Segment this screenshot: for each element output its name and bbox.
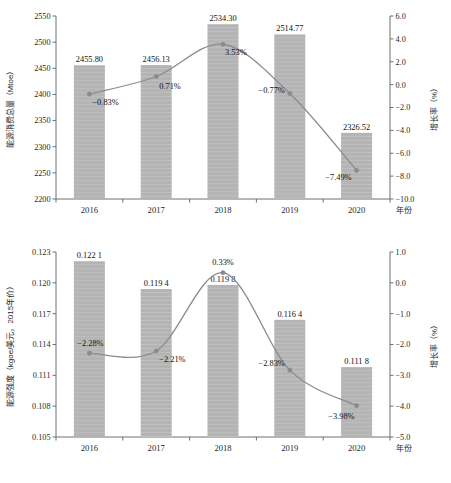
y2-axis-tick-label: 0.0 <box>396 279 406 288</box>
bar-texture-stripe <box>141 96 172 97</box>
y2-axis-tick-label: −6.0 <box>396 149 411 158</box>
y-axis-tick-label: 0.117 <box>32 310 50 319</box>
bar-texture-stripe <box>141 436 172 437</box>
bar-texture-stripe <box>208 308 239 309</box>
bar-texture-stripe <box>341 426 372 427</box>
bar-texture-stripe <box>274 97 305 98</box>
bar-texture-stripe <box>141 324 172 325</box>
bar-texture-stripe <box>274 45 305 46</box>
bar-texture-stripe <box>208 416 239 417</box>
dual-chart-figure: 22002250230023502400245025002550−10.0−8.… <box>0 0 451 483</box>
y-axis-tick-label: 2550 <box>34 12 50 21</box>
bar-texture-stripe <box>74 84 105 85</box>
x-axis-category-label: 2016 <box>81 443 99 453</box>
bar-texture-stripe <box>141 176 172 177</box>
line-data-point <box>355 403 359 407</box>
bar-texture-stripe <box>141 380 172 381</box>
bar-texture-stripe <box>74 404 105 405</box>
bar-texture-stripe <box>141 396 172 397</box>
bar-value-label: 2534.30 <box>209 14 236 23</box>
y-axis-title: 能源消费总量（Mtoe） <box>5 67 15 149</box>
bar-texture-stripe <box>341 434 372 435</box>
bar-texture-stripe <box>208 288 239 289</box>
bar-texture-stripe <box>74 180 105 181</box>
bar-texture-stripe <box>74 108 105 109</box>
growth-rate-label: −7.49% <box>325 173 351 182</box>
bar-texture-stripe <box>74 432 105 433</box>
bar-value-label: 2514.77 <box>276 24 303 33</box>
y-axis-tick-label: 2300 <box>34 143 50 152</box>
x-axis-category-label: 2018 <box>214 443 231 453</box>
bar-texture-stripe <box>74 364 105 365</box>
bar-texture-stripe <box>74 308 105 309</box>
bar-texture-stripe <box>141 144 172 145</box>
bar-texture-stripe <box>74 120 105 121</box>
bar-texture-stripe <box>208 420 239 421</box>
bar-texture-stripe <box>74 280 105 281</box>
bar-texture-stripe <box>74 164 105 165</box>
bar-texture-stripe <box>208 412 239 413</box>
bar-texture-stripe <box>208 332 239 333</box>
y-axis-tick-label: 0.105 <box>32 433 50 442</box>
bar-texture-stripe <box>208 159 239 160</box>
growth-rate-label: 0.71% <box>159 82 181 91</box>
bar-texture-stripe <box>141 316 172 317</box>
bar-texture-stripe <box>74 416 105 417</box>
bar-texture-stripe <box>208 131 239 132</box>
bar-texture-stripe <box>274 343 305 344</box>
bar-texture-stripe <box>208 87 239 88</box>
line-data-point <box>355 168 359 172</box>
bar-texture-stripe <box>274 185 305 186</box>
bar-texture-stripe <box>208 296 239 297</box>
bar-texture-stripe <box>141 156 172 157</box>
bar-texture-stripe <box>74 288 105 289</box>
bar-texture-stripe <box>208 316 239 317</box>
bar-texture-stripe <box>274 69 305 70</box>
bar-texture-stripe <box>74 388 105 389</box>
bar-texture-stripe <box>74 292 105 293</box>
bar-texture-stripe <box>274 391 305 392</box>
bar-texture-stripe <box>208 360 239 361</box>
bar-texture-stripe <box>208 396 239 397</box>
bar-texture-stripe <box>208 187 239 188</box>
bar-texture-stripe <box>141 112 172 113</box>
bar-texture-stripe <box>74 268 105 269</box>
bar-texture-stripe <box>341 430 372 431</box>
bar-texture-stripe <box>208 91 239 92</box>
bar-texture-stripe <box>341 422 372 423</box>
bar-texture-stripe <box>341 398 372 399</box>
bar-texture-stripe <box>341 164 372 165</box>
bar-texture-stripe <box>74 172 105 173</box>
bar-texture-stripe <box>74 384 105 385</box>
bar-texture-stripe <box>208 143 239 144</box>
bar-texture-stripe <box>208 151 239 152</box>
bar-texture-stripe <box>274 113 305 114</box>
bar-texture-stripe <box>208 147 239 148</box>
bar-texture-stripe <box>208 39 239 40</box>
bar-texture-stripe <box>341 160 372 161</box>
bar-texture-stripe <box>208 155 239 156</box>
line-data-point <box>154 74 158 78</box>
bar-texture-stripe <box>141 408 172 409</box>
bar-texture-stripe <box>274 117 305 118</box>
bar-texture-stripe <box>74 304 105 305</box>
bar-texture-stripe <box>74 396 105 397</box>
bar-texture-stripe <box>141 364 172 365</box>
bar-texture-stripe <box>74 276 105 277</box>
bar-texture-stripe <box>74 136 105 137</box>
bar-texture-stripe <box>274 335 305 336</box>
bar-texture-stripe <box>208 356 239 357</box>
bar-texture-stripe <box>208 312 239 313</box>
bar-texture-stripe <box>74 144 105 145</box>
growth-rate-label: −2.28% <box>77 339 103 348</box>
bar-texture-stripe <box>208 183 239 184</box>
y2-axis-tick-label: −4.0 <box>396 402 411 411</box>
bar-texture-stripe <box>341 144 372 145</box>
bar-texture-stripe <box>141 72 172 73</box>
bar-value-label: 2456.13 <box>143 55 170 64</box>
y-axis-tick-label: 0.120 <box>32 279 50 288</box>
bar-texture-stripe <box>274 383 305 384</box>
y2-axis-tick-label: 6.0 <box>396 12 406 21</box>
y2-axis-tick-label: 0.0 <box>396 81 406 90</box>
bar-texture-stripe <box>208 352 239 353</box>
